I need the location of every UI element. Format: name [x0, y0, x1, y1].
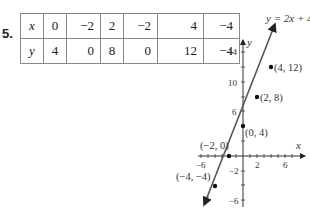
graph-line: [206, 24, 275, 200]
graph: y = 2x + 4 x y −6 2 6 14 10 6 −2 −6 (4, …: [0, 0, 310, 209]
y-tick-label: −2: [229, 166, 239, 176]
x-tick-label: −6: [196, 160, 206, 170]
y-axis-label: y: [246, 36, 252, 48]
y-tick-label: 10: [228, 78, 238, 88]
y-tick-label: −6: [229, 196, 239, 206]
point-label: (−2, 0): [200, 140, 229, 152]
equation-label: y = 2x + 4: [265, 12, 310, 24]
point-label: (4, 12): [274, 62, 302, 74]
y-tick-label: 6: [232, 107, 237, 117]
y-tick-label: 14: [228, 47, 238, 57]
x-tick-label: 2: [255, 160, 260, 170]
point-label: (−4, −4): [176, 171, 211, 183]
point-label: (0, 4): [245, 127, 268, 139]
x-axis-label: x: [295, 139, 301, 151]
x-tick-label: 6: [283, 160, 288, 170]
point-label: (2, 8): [260, 92, 283, 104]
